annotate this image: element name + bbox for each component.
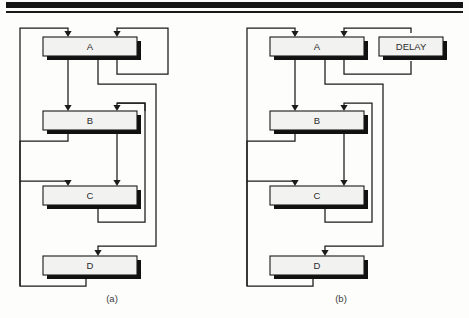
a-arrow-into-b-left: [64, 105, 71, 111]
a-arrow-into-c-left: [64, 180, 71, 186]
b-node-delay-label: DELAY: [396, 41, 427, 52]
a-node-d[interactable]: D: [43, 256, 141, 279]
a-node-d-label: D: [87, 260, 94, 271]
a-node-c[interactable]: C: [43, 186, 141, 209]
b-node-delay[interactable]: DELAY: [379, 37, 447, 60]
panels-layer: ABCD(a)ADELAYBCD(b): [20, 28, 447, 304]
a-wire-b-side: [117, 103, 145, 111]
b-wire-delay-to-a: [344, 28, 411, 33]
a-wire-d-to-a-in: [20, 28, 86, 286]
b-arrow-into-c-left: [291, 180, 298, 186]
a-node-a[interactable]: A: [43, 37, 141, 60]
a-arrow-into-b-right: [113, 105, 120, 111]
b-node-a[interactable]: A: [270, 37, 368, 60]
a-arrow-into-c-right: [113, 180, 120, 186]
b-node-d-label: D: [314, 260, 321, 271]
panel-b-caption: (b): [335, 293, 347, 304]
a-arrow-into-a-left: [64, 31, 71, 37]
a-node-c-label: C: [87, 190, 94, 201]
panel-a-caption: (a): [106, 293, 118, 304]
b-node-b[interactable]: B: [270, 111, 368, 134]
b-node-a-label: A: [314, 41, 321, 52]
b-arrow-into-a-left: [291, 31, 298, 37]
b-wire-a-to-delay: [344, 60, 411, 74]
a-wire-b-to-c: [20, 134, 68, 181]
b-arrow-into-b-left: [291, 105, 298, 111]
b-arrow-into-d: [321, 250, 328, 256]
a-arrow-into-a-right: [113, 31, 120, 37]
figure-root: ABCD(a)ADELAYBCD(b): [0, 0, 469, 318]
a-node-b-label: B: [87, 115, 93, 126]
b-node-c-label: C: [314, 190, 321, 201]
b-wire-b-to-c-left: [247, 134, 295, 181]
b-node-c[interactable]: C: [270, 186, 368, 209]
b-arrow-into-b-right: [340, 105, 347, 111]
b-arrow-into-c-right: [340, 180, 347, 186]
panel-a: ABCD(a): [20, 28, 168, 304]
block-diagram-figure: ABCD(a)ADELAYBCD(b): [0, 0, 469, 318]
panel-b: ADELAYBCD(b): [247, 28, 447, 304]
a-node-a-label: A: [87, 41, 94, 52]
a-arrow-into-d: [94, 250, 101, 256]
b-node-d[interactable]: D: [270, 256, 368, 279]
a-node-b[interactable]: B: [43, 111, 141, 134]
top-rule-thick: [6, 2, 463, 8]
b-arrow-into-a-right: [340, 31, 347, 37]
b-node-b-label: B: [314, 115, 320, 126]
b-wire-d-to-a-in: [247, 28, 313, 286]
top-rule-thin: [6, 11, 463, 13]
